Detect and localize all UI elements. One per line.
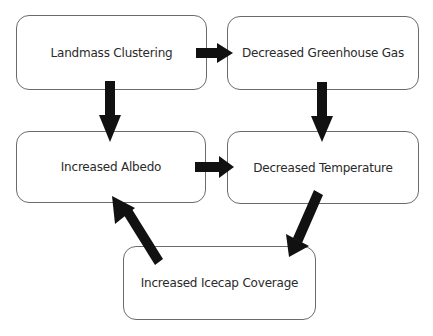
arrows-layer (0, 0, 433, 336)
arrow-down-icon (311, 82, 333, 142)
arrow-right-icon (196, 43, 233, 63)
arrow-right-icon (195, 156, 234, 178)
arrow-down-icon (99, 81, 121, 142)
arrow-down-left-icon (286, 190, 323, 257)
arrow-up-left-icon (112, 196, 163, 265)
